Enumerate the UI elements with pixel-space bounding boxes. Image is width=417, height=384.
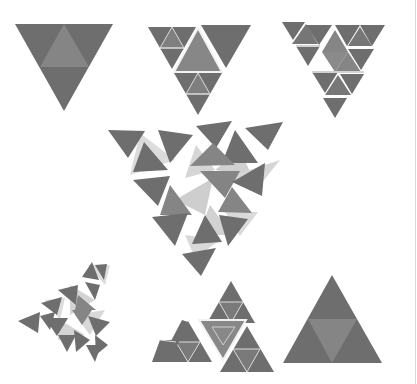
right-edge-divider xyxy=(415,0,416,384)
stage-7-upright-triangle xyxy=(283,275,382,363)
stage-1-inverted-triangle xyxy=(15,24,113,111)
stage-4-exploded-tiles xyxy=(108,121,283,276)
stage-6-upright-subdivided xyxy=(152,281,274,372)
stage-5-rotated-tiles xyxy=(18,262,110,362)
stage-2-partial-subdivision xyxy=(148,25,251,115)
triangle-subdivision-diagram xyxy=(0,0,417,384)
stage-3-full-subdivision xyxy=(282,22,385,118)
